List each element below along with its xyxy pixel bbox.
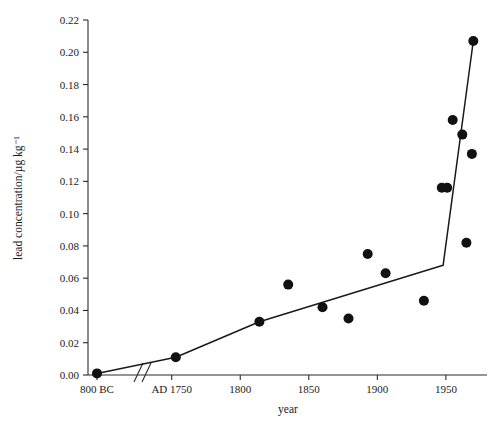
- data-point: [468, 36, 478, 46]
- y-tick-label: 0.14: [60, 143, 80, 155]
- data-point: [448, 115, 458, 125]
- y-tick-label: 0.18: [60, 79, 80, 91]
- x-tick-label: 800 BC: [80, 383, 114, 395]
- data-point: [254, 317, 264, 327]
- x-tick-label: 1850: [298, 383, 321, 395]
- data-point: [419, 296, 429, 306]
- y-axis: 0.000.020.040.060.080.100.120.140.160.18…: [12, 14, 88, 381]
- data-point: [171, 352, 181, 362]
- chart-canvas: 0.000.020.040.060.080.100.120.140.160.18…: [0, 0, 490, 433]
- y-tick-label: 0.04: [60, 304, 80, 316]
- data-point: [344, 314, 354, 324]
- y-tick-label: 0.06: [60, 272, 80, 284]
- data-point-series: [92, 36, 478, 378]
- x-axis: 800 BCAD 17501800185019001950 year: [80, 363, 487, 416]
- x-axis-title: year: [278, 403, 298, 416]
- data-point: [363, 249, 373, 259]
- y-tick-label: 0.22: [60, 14, 79, 26]
- y-axis-ticks: 0.000.020.040.060.080.100.120.140.160.18…: [60, 14, 88, 381]
- x-tick-label: 1800: [229, 383, 252, 395]
- x-tick-label: 1900: [366, 383, 389, 395]
- data-point: [457, 130, 467, 140]
- y-tick-label: 0.16: [60, 111, 80, 123]
- x-tick-label: AD 1750: [151, 383, 192, 395]
- x-axis-ticks: 800 BCAD 17501800185019001950: [80, 375, 457, 395]
- y-tick-label: 0.02: [60, 337, 79, 349]
- data-point: [467, 149, 477, 159]
- data-point: [318, 302, 328, 312]
- y-tick-label: 0.12: [60, 175, 79, 187]
- y-tick-label: 0.20: [60, 46, 80, 58]
- y-tick-label: 0.10: [60, 208, 80, 220]
- data-point: [461, 238, 471, 248]
- lead-concentration-chart: 0.000.020.040.060.080.100.120.140.160.18…: [0, 0, 490, 433]
- y-tick-label: 0.00: [60, 369, 80, 381]
- trend-line: [97, 41, 473, 373]
- x-tick-label: 1950: [435, 383, 458, 395]
- y-axis-title: lead concentration/µg kg⁻¹: [12, 135, 25, 260]
- y-tick-label: 0.08: [60, 240, 80, 252]
- data-point: [442, 183, 452, 193]
- data-point: [381, 268, 391, 278]
- data-point: [92, 368, 102, 378]
- data-point: [283, 280, 293, 290]
